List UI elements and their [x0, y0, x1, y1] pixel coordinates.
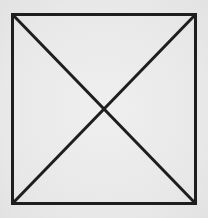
diagram-svg [0, 0, 208, 218]
diagram-canvas [0, 0, 208, 218]
